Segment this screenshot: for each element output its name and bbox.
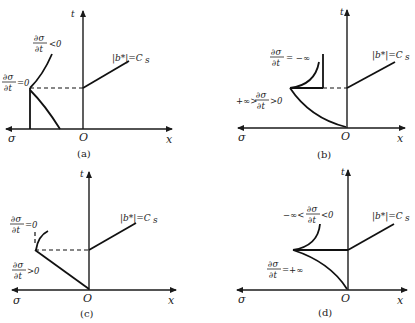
characteristic-line: [347, 62, 395, 88]
derivative-annotation-positive: ∂σ ∂t >0: [12, 260, 40, 281]
svg-text:<0: <0: [321, 210, 334, 220]
svg-text:∂σ: ∂σ: [13, 260, 23, 270]
svg-text:|b*|=C: |b*|=C: [372, 211, 403, 222]
panel-caption: (d): [318, 307, 332, 318]
panel-c: t σ O x (c) |b*|=C s ∂σ ∂t =0 ∂σ ∂t >0: [10, 169, 176, 319]
x-axis-label: x: [168, 294, 175, 307]
derivative-annotation-neg-infinity: ∂σ ∂t = −∞: [270, 47, 310, 68]
svg-text:∂σ: ∂σ: [256, 90, 266, 100]
svg-text:∂σ: ∂σ: [11, 214, 21, 224]
sigma-axis-label: σ: [8, 132, 16, 145]
derivative-annotation-negative-bounded: −∞< ∂σ ∂t <0: [283, 204, 334, 225]
svg-text:∂t: ∂t: [12, 225, 20, 235]
svg-text:∂σ: ∂σ: [34, 33, 44, 43]
svg-text:s: s: [153, 215, 158, 225]
svg-text:<0: <0: [49, 39, 62, 49]
origin-label: O: [79, 131, 88, 144]
origin-label: O: [341, 292, 350, 305]
characteristic-line: [348, 224, 394, 250]
stress-curve-upper: [30, 54, 52, 88]
svg-text:∂σ: ∂σ: [268, 259, 278, 269]
svg-text:∂t: ∂t: [257, 101, 265, 111]
panel-b: t σ O x (b) |b*|=C s ∂σ ∂t = −∞ +∞> ∂σ ∂…: [236, 7, 410, 160]
svg-text:∂σ: ∂σ: [3, 72, 13, 82]
svg-text:∂t: ∂t: [308, 215, 316, 225]
stress-curve-upper: [290, 62, 319, 88]
svg-text:s: s: [405, 52, 410, 62]
svg-text:∂t: ∂t: [269, 270, 277, 280]
svg-text:= −∞: = −∞: [286, 53, 310, 63]
derivative-annotation-zero: ∂σ ∂t =0: [10, 214, 38, 235]
sigma-axis-label: σ: [238, 293, 246, 306]
panel-caption: (a): [77, 148, 91, 159]
stress-line-lower: [35, 250, 89, 289]
svg-text:|b*|=C: |b*|=C: [120, 213, 151, 224]
svg-text:|b*|=C: |b*|=C: [372, 50, 403, 61]
t-axis-label: t: [340, 7, 344, 17]
wave-speed-label: |b*|=C s: [372, 211, 410, 223]
x-axis-label: x: [166, 133, 173, 146]
svg-text:=+∞: =+∞: [282, 265, 303, 275]
wave-speed-label: |b*|=C s: [112, 53, 150, 65]
svg-text:s: s: [145, 55, 150, 65]
derivative-annotation-negative: ∂σ ∂t <0: [33, 33, 62, 54]
svg-text:+∞>: +∞>: [236, 96, 257, 106]
svg-text:∂t: ∂t: [14, 271, 22, 281]
panel-d: t σ O x (d) |b*|=C s −∞< ∂σ ∂t <0 ∂σ ∂t …: [237, 167, 410, 318]
characteristic-line: [89, 223, 136, 250]
svg-text:−∞<: −∞<: [283, 210, 304, 220]
stress-curve-lower: [290, 88, 346, 127]
origin-label: O: [341, 130, 350, 143]
figure: t σ O x (a) |b*|=C s ∂σ ∂t <0 ∂σ ∂t =0: [0, 0, 415, 323]
stress-curve-lower: [30, 90, 60, 129]
derivative-annotation-zero: ∂σ ∂t =0: [2, 72, 30, 93]
svg-text:>0: >0: [270, 96, 283, 106]
x-axis-label: x: [397, 132, 404, 145]
origin-label: O: [83, 292, 92, 305]
sigma-axis-label: σ: [238, 131, 246, 144]
stress-curve-upper: [293, 224, 320, 250]
svg-text:∂t: ∂t: [35, 44, 43, 54]
stress-curve-upper: [36, 231, 48, 250]
derivative-annotation-pos-infinity: ∂σ ∂t =+∞: [267, 259, 303, 280]
svg-text:∂σ: ∂σ: [271, 47, 281, 57]
t-axis-label: t: [80, 169, 84, 179]
panel-caption: (b): [317, 149, 331, 160]
derivative-annotation-positive: +∞> ∂σ ∂t >0: [236, 90, 283, 111]
t-axis-label: t: [71, 9, 75, 19]
svg-text:∂σ: ∂σ: [307, 204, 317, 214]
svg-text:=0: =0: [17, 78, 30, 88]
x-axis-label: x: [397, 294, 404, 307]
sigma-axis-label: σ: [13, 294, 21, 307]
wave-speed-label: |b*|=C s: [372, 50, 410, 62]
svg-text:|b*|=C: |b*|=C: [112, 53, 143, 64]
panel-a: t σ O x (a) |b*|=C s ∂σ ∂t <0 ∂σ ∂t =0: [2, 9, 173, 159]
svg-text:>0: >0: [27, 266, 40, 276]
wave-speed-label: |b*|=C s: [120, 213, 158, 225]
characteristic-line: [83, 61, 129, 88]
t-axis-label: t: [341, 167, 345, 177]
svg-text:=0: =0: [25, 220, 38, 230]
svg-text:s: s: [405, 213, 410, 223]
panel-caption: (c): [80, 308, 94, 319]
svg-text:∂t: ∂t: [272, 58, 280, 68]
svg-text:∂t: ∂t: [4, 83, 12, 93]
